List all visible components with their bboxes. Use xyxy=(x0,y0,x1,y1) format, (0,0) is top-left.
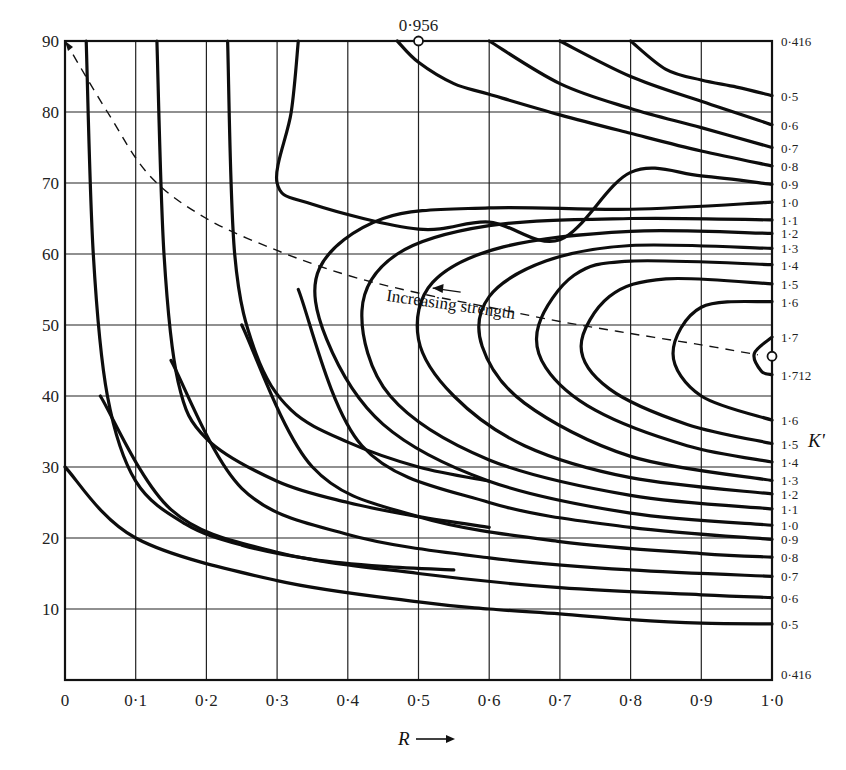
open-circle-marker xyxy=(768,352,777,361)
x-axis-label: R xyxy=(397,728,410,749)
y-tick-label: 80 xyxy=(42,103,59,122)
contour-value-label: 0·5 xyxy=(781,617,798,632)
k-prime-axis-label: K' xyxy=(807,430,826,451)
x-tick-label: 0·3 xyxy=(266,691,289,710)
contour-value-label: 1·2 xyxy=(781,487,798,502)
x-tick-label: 0·7 xyxy=(549,691,572,710)
x-axis-title: R xyxy=(397,728,410,749)
y-tick-label: 20 xyxy=(42,529,59,548)
y-tick-label: 70 xyxy=(42,174,59,193)
contour-line xyxy=(228,41,490,481)
increasing-strength-annotation: Increasing strength xyxy=(385,286,517,323)
contour-value-label: 1·6 xyxy=(781,295,799,310)
contour-value-label: 1·2 xyxy=(781,226,798,241)
x-tick-label: 0·5 xyxy=(407,691,430,710)
contour-line xyxy=(673,301,772,420)
contour-value-label: 0·7 xyxy=(781,569,799,584)
top-marker-value: 0·956 xyxy=(399,16,439,35)
contour-value-label: 0·5 xyxy=(781,89,798,104)
contour-value-label: 1·5 xyxy=(781,277,798,292)
x-tick-label: 0·6 xyxy=(478,691,501,710)
x-tick-label: 0·9 xyxy=(690,691,713,710)
contour-value-label: 0·7 xyxy=(781,141,799,156)
contour-value-label: 0·6 xyxy=(781,591,799,606)
arrow-up-icon xyxy=(65,41,73,51)
contour-value-label: 1·4 xyxy=(781,258,799,273)
y-tick-label: 90 xyxy=(42,32,59,51)
contour-chart: 00·10·20·30·40·50·60·70·80·91·0 10203040… xyxy=(0,0,846,770)
y-tick-label: 60 xyxy=(42,245,59,264)
x-tick-label: 0·2 xyxy=(195,691,218,710)
x-tick-label: 0 xyxy=(61,691,70,710)
contour-line xyxy=(397,41,772,166)
open-circle-marker xyxy=(414,37,423,46)
contour-value-label: 0·8 xyxy=(781,159,798,174)
x-tick-label: 0·1 xyxy=(124,691,147,710)
contour-value-label: 1·3 xyxy=(781,241,798,256)
y-tick-label: 10 xyxy=(42,600,59,619)
contour-value-label: 1·0 xyxy=(781,195,798,210)
contour-value-label: 1·6 xyxy=(781,413,799,428)
contour-value-label: 1·5 xyxy=(781,437,798,452)
contour-value-label: 1·712 xyxy=(781,368,811,383)
x-tick-label: 1·0 xyxy=(761,691,784,710)
y-tick-label: 50 xyxy=(42,316,59,335)
right-edge-contour-labels: 0·4160·50·60·70·80·91·01·11·21·31·41·51·… xyxy=(781,34,812,682)
y-tick-label: 30 xyxy=(42,458,59,477)
y-axis-ticks: 102030405060708090 xyxy=(42,32,59,619)
contour-value-label: 1·1 xyxy=(781,502,798,517)
contour-line xyxy=(277,41,772,242)
contour-value-label: 1·4 xyxy=(781,455,799,470)
contour-value-label: 0·416 xyxy=(781,34,812,49)
x-tick-label: 0·4 xyxy=(336,691,359,710)
y-tick-label: 40 xyxy=(42,387,59,406)
contour-value-label: 0·6 xyxy=(781,118,799,133)
contour-value-label: 1·0 xyxy=(781,518,798,533)
contour-value-label: 0·9 xyxy=(781,532,798,547)
contour-value-label: 1·7 xyxy=(781,330,799,345)
contour-value-label: 0·8 xyxy=(781,550,798,565)
contour-value-label: 0·416 xyxy=(781,667,812,682)
x-tick-label: 0·8 xyxy=(619,691,642,710)
contour-value-label: 0·9 xyxy=(781,177,798,192)
arrow-right-icon xyxy=(416,735,455,743)
x-axis-ticks: 00·10·20·30·40·50·60·70·80·91·0 xyxy=(61,691,784,710)
